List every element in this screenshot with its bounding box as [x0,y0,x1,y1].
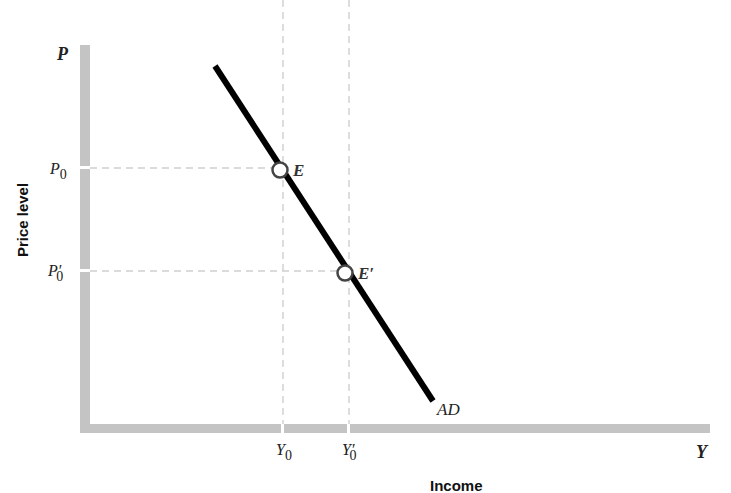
tick-y0: Y0 [276,441,292,463]
axis-notch [347,424,350,433]
axis-notch [80,166,90,169]
ad-curve [215,66,433,401]
ad-curve-label: AD [436,400,460,419]
x-axis-title: Income [430,477,483,493]
tick-p0-main: P [49,160,60,177]
tick-y0-prime: Y′0 [342,441,356,463]
tick-p0-prime: P′0 [47,262,63,284]
tick-y0-sub: 0 [285,448,292,463]
point-e-marker [273,163,288,178]
tick-p0-prime-sub: 0 [56,269,63,284]
tick-y0-prime-sub: 0 [349,448,356,463]
p-axis-symbol: P [56,44,69,64]
point-e-prime-label: E′ [357,264,374,283]
y-axis [80,45,90,433]
axis-notch [281,424,284,433]
tick-p0: P0 [49,160,67,182]
y-axis-symbol: Y [696,442,709,462]
y-axis-title: Price level [14,183,31,257]
tick-p0-sub: 0 [60,167,67,182]
x-axis [80,424,710,433]
axis-notch [80,269,90,272]
point-e-prime-marker [338,266,353,281]
ad-diagram: P Y E E′ AD P0 P′0 Y0 Y′0 Price level In… [0,0,731,493]
point-e-label: E [292,161,304,180]
